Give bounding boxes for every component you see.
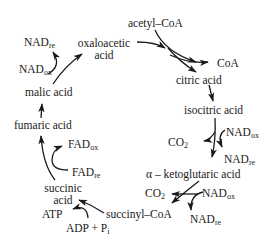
arrow-nad-reduction-1: [220, 130, 225, 147]
arrow-fumaric-to-malic: [41, 104, 42, 118]
nad-text: NAD: [190, 213, 215, 225]
node-malic-acid: malic acid: [25, 86, 73, 98]
arrow-oxaloacetic-to-citric: [137, 42, 165, 48]
arrow-isocitric-to-akg: [212, 118, 215, 157]
nad-text: NAD: [226, 126, 251, 138]
cofactor-fad-re: FADre: [72, 166, 100, 178]
co2-subscript: 2: [184, 141, 188, 150]
cofactor-nad-re-malic: NADre: [24, 36, 55, 48]
cofactor-nad-ox-malic: NADox: [19, 63, 52, 75]
ox-subscript: ox: [44, 68, 52, 77]
re-subscript: re: [94, 171, 100, 180]
node-succinic-line1: succinic: [40, 182, 86, 194]
arrow-adp-to-atp: [73, 208, 88, 218]
cofactor-nad-ox-isocitric: NADox: [226, 126, 259, 138]
co2-subscript: 2: [161, 192, 165, 201]
re-subscript: re: [49, 41, 55, 50]
product-co2-akg: CO2: [145, 187, 165, 199]
nad-text: NAD: [24, 36, 49, 48]
product-co2-isocitric: CO2: [168, 136, 188, 148]
krebs-cycle-diagram: acetyl–CoA oxaloacetic acid NADre NADox …: [0, 0, 272, 249]
cofactor-nad-re-akg: NADre: [190, 213, 221, 225]
node-isocitric-acid: isocitric acid: [184, 104, 243, 116]
node-citric-acid: citric acid: [176, 74, 222, 86]
nad-text: NAD: [224, 153, 249, 165]
node-succinyl-coa: succinyl–CoA: [106, 208, 172, 220]
product-atp: ATP: [42, 208, 62, 220]
arrow-fad-oxidation: [52, 146, 68, 170]
node-oxaloacetic-line1: oxaloacetic: [74, 37, 134, 49]
fad-text: FAD: [72, 166, 94, 178]
ox-subscript: ox: [90, 143, 98, 152]
co2-text: CO: [145, 187, 161, 199]
node-fumaric-acid: fumaric acid: [14, 119, 72, 131]
arrow-co2-release-1: [204, 132, 215, 141]
pi-subscript: i: [107, 227, 109, 236]
node-acetyl-coa: acetyl–CoA: [128, 17, 183, 29]
nad-text: NAD: [19, 63, 44, 75]
cofactor-nad-ox-akg: NADox: [202, 187, 235, 199]
arrow-citric-to-isocitric: [209, 85, 213, 101]
node-oxaloacetic-acid: oxaloacetic acid: [74, 37, 134, 61]
node-succinic-acid: succinic acid: [40, 182, 86, 206]
adp-pi-text: ADP + P: [66, 222, 107, 234]
reactant-adp-pi: ADP + Pi: [66, 222, 109, 234]
cofactor-coa: CoA: [217, 57, 239, 69]
arrow-succinic-to-fumaric: [41, 136, 55, 180]
re-subscript: re: [249, 158, 255, 167]
node-succinic-line2: acid: [40, 194, 86, 206]
node-alpha-ketoglutaric-acid: α – ketoglutaric acid: [146, 168, 240, 180]
fad-text: FAD: [68, 138, 90, 150]
cofactor-nad-re-isocitric: NADre: [224, 153, 255, 165]
ox-subscript: ox: [227, 192, 235, 201]
re-subscript: re: [215, 218, 221, 227]
node-oxaloacetic-line2: acid: [74, 49, 134, 61]
nad-text: NAD: [202, 187, 227, 199]
cofactor-fad-ox: FADox: [68, 138, 98, 150]
ox-subscript: ox: [251, 131, 259, 140]
co2-text: CO: [168, 136, 184, 148]
arrow-akg-to-succinylcoa: [172, 181, 199, 203]
